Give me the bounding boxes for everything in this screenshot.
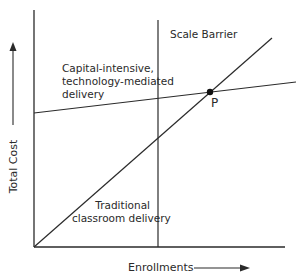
y-arrow-head-icon: [10, 42, 17, 51]
y-axis-label: Total Cost: [7, 122, 20, 212]
x-axis-label: Enrollments: [128, 261, 194, 274]
cost-diagram: [0, 0, 296, 277]
traditional-label-line-2: classroom delivery: [72, 212, 150, 225]
intersection-point: [207, 89, 213, 95]
scale-barrier-label: Scale Barrier: [170, 28, 237, 41]
technology-line-label: Capital-intensive, technology-mediated d…: [62, 62, 174, 101]
intersection-label: P: [211, 97, 218, 110]
traditional-line-label: Traditional classroom delivery: [72, 199, 150, 225]
technology-label-line-3: delivery: [62, 88, 174, 101]
technology-label-line-2: technology-mediated: [62, 75, 174, 88]
technology-label-line-1: Capital-intensive,: [62, 62, 174, 75]
traditional-label-line-1: Traditional: [72, 199, 150, 212]
x-arrow-head-icon: [240, 265, 250, 272]
